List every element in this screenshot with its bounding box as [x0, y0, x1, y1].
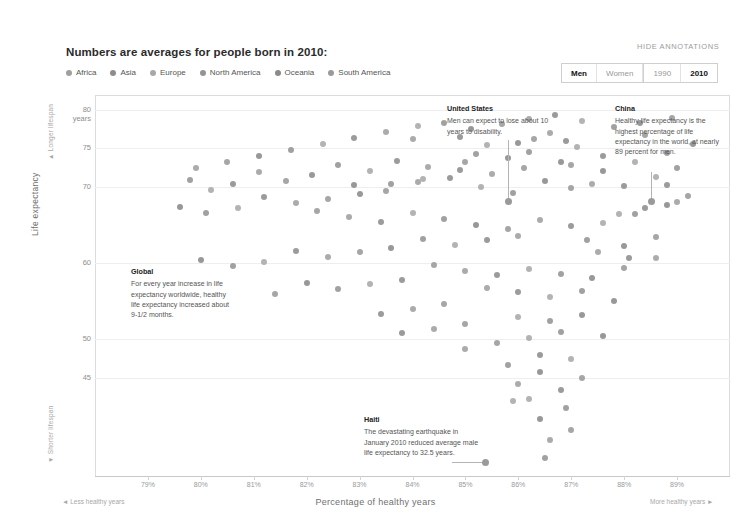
data-point[interactable] — [558, 159, 564, 165]
data-point[interactable] — [425, 164, 431, 170]
data-point[interactable] — [579, 312, 585, 318]
data-point[interactable] — [584, 237, 590, 243]
view-toggles[interactable]: MenWomen19902010 — [561, 63, 718, 83]
data-point[interactable] — [410, 210, 416, 216]
data-point[interactable] — [230, 181, 236, 187]
highlight-dot-china[interactable] — [648, 198, 655, 205]
data-point[interactable] — [441, 216, 447, 222]
data-point[interactable] — [568, 185, 574, 191]
data-point[interactable] — [272, 291, 278, 297]
data-point[interactable] — [325, 196, 331, 202]
data-point[interactable] — [526, 396, 532, 402]
data-point[interactable] — [505, 362, 511, 368]
data-point[interactable] — [563, 405, 569, 411]
data-point[interactable] — [621, 183, 627, 189]
data-point[interactable] — [346, 214, 352, 220]
data-point[interactable] — [515, 381, 521, 387]
data-point[interactable] — [547, 318, 553, 324]
data-point[interactable] — [642, 205, 648, 211]
data-point[interactable] — [484, 142, 490, 148]
data-point[interactable] — [293, 248, 299, 254]
data-point[interactable] — [515, 233, 521, 239]
data-point[interactable] — [431, 326, 437, 332]
data-point[interactable] — [674, 199, 680, 205]
data-point[interactable] — [574, 144, 580, 150]
data-point[interactable] — [367, 281, 373, 287]
data-point[interactable] — [537, 416, 543, 422]
data-point[interactable] — [600, 220, 606, 226]
data-point[interactable] — [325, 254, 331, 260]
data-point[interactable] — [494, 340, 500, 346]
data-point[interactable] — [568, 223, 574, 229]
data-point[interactable] — [537, 352, 543, 358]
data-point[interactable] — [452, 242, 458, 248]
data-point[interactable] — [526, 335, 532, 341]
data-point[interactable] — [632, 159, 638, 165]
data-point[interactable] — [367, 168, 373, 174]
data-point[interactable] — [415, 123, 421, 129]
data-point[interactable] — [489, 171, 495, 177]
data-point[interactable] — [600, 153, 606, 159]
data-point[interactable] — [653, 174, 659, 180]
data-point[interactable] — [558, 329, 564, 335]
data-point[interactable] — [335, 162, 341, 168]
data-point[interactable] — [616, 211, 622, 217]
data-point[interactable] — [256, 169, 262, 175]
data-point[interactable] — [563, 138, 569, 144]
data-point[interactable] — [457, 167, 463, 173]
legend-item-asia[interactable]: Asia — [110, 68, 136, 77]
data-point[interactable] — [526, 149, 532, 155]
data-point[interactable] — [378, 311, 384, 317]
data-point[interactable] — [399, 330, 405, 336]
data-point[interactable] — [378, 219, 384, 225]
legend-item-europe[interactable]: Europe — [150, 68, 186, 77]
data-point[interactable] — [256, 153, 262, 159]
data-point[interactable] — [462, 268, 468, 274]
data-point[interactable] — [542, 455, 548, 461]
data-point[interactable] — [494, 272, 500, 278]
data-point[interactable] — [579, 288, 585, 294]
data-point[interactable] — [309, 172, 315, 178]
data-point[interactable] — [383, 188, 389, 194]
data-point[interactable] — [420, 236, 426, 242]
data-point[interactable] — [320, 141, 326, 147]
data-point[interactable] — [431, 262, 437, 268]
data-point[interactable] — [399, 277, 405, 283]
data-point[interactable] — [579, 375, 585, 381]
data-point[interactable] — [521, 165, 527, 171]
data-point[interactable] — [261, 194, 267, 200]
toggle-2010[interactable]: 2010 — [681, 64, 717, 82]
data-point[interactable] — [441, 301, 447, 307]
data-point[interactable] — [579, 118, 585, 124]
data-point[interactable] — [357, 249, 363, 255]
data-point[interactable] — [558, 271, 564, 277]
data-point[interactable] — [473, 151, 479, 157]
data-point[interactable] — [410, 306, 416, 312]
data-point[interactable] — [542, 178, 548, 184]
data-point[interactable] — [177, 204, 183, 210]
data-point[interactable] — [664, 202, 670, 208]
data-point[interactable] — [394, 158, 400, 164]
data-point[interactable] — [674, 165, 680, 171]
data-point[interactable] — [547, 437, 553, 443]
data-point[interactable] — [351, 135, 357, 141]
data-point[interactable] — [288, 147, 294, 153]
legend-item-oceania[interactable]: Oceania — [275, 68, 315, 77]
data-point[interactable] — [383, 129, 389, 135]
data-point[interactable] — [589, 275, 595, 281]
data-point[interactable] — [198, 257, 204, 263]
data-point[interactable] — [203, 210, 209, 216]
data-point[interactable] — [653, 234, 659, 240]
data-point[interactable] — [261, 259, 267, 265]
data-point[interactable] — [568, 356, 574, 362]
data-point[interactable] — [473, 222, 479, 228]
toggle-1990[interactable]: 1990 — [643, 64, 681, 82]
data-point[interactable] — [621, 265, 627, 271]
data-point[interactable] — [335, 286, 341, 292]
data-point[interactable] — [537, 369, 543, 375]
data-point[interactable] — [595, 249, 601, 255]
data-point[interactable] — [462, 159, 468, 165]
data-point[interactable] — [510, 190, 516, 196]
data-point[interactable] — [600, 168, 606, 174]
data-point[interactable] — [447, 175, 453, 181]
